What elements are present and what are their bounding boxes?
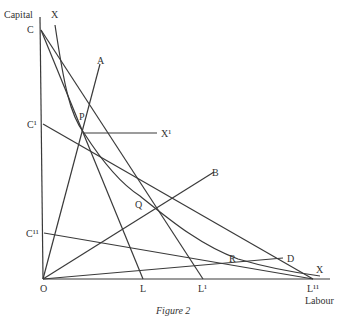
y-axis-label: Capital	[4, 9, 33, 20]
ray-od	[43, 258, 283, 279]
label-c: C	[27, 24, 34, 35]
label-x1: X¹	[161, 128, 171, 139]
figure-caption: Figure 2	[155, 305, 190, 316]
label-q: Q	[135, 199, 143, 210]
label-l11: L¹¹	[307, 283, 319, 294]
label-d: D	[287, 253, 294, 264]
diagram-canvas: Capital X C C¹ C¹¹ A P X¹ B Q R D X O L …	[0, 0, 337, 322]
label-c1: C¹	[27, 119, 37, 130]
label-b: B	[212, 167, 219, 178]
ray-oa	[43, 64, 100, 279]
isocost-c-l1	[41, 30, 203, 279]
label-a: A	[97, 55, 105, 66]
label-l: L	[140, 283, 146, 294]
x-axis-label: Labour	[305, 295, 335, 306]
label-o: O	[40, 283, 47, 294]
capital-axis	[40, 17, 43, 279]
isoquant-label-top: X	[51, 9, 59, 20]
label-l1: L¹	[198, 283, 207, 294]
isoquant-curve	[55, 25, 320, 276]
isoquant-label-bottom: X	[316, 264, 324, 275]
label-r: R	[229, 253, 236, 264]
label-c11: C¹¹	[26, 228, 39, 239]
label-p: P	[79, 111, 85, 122]
